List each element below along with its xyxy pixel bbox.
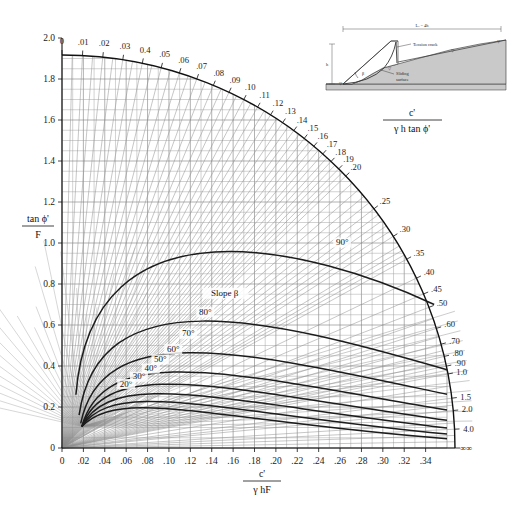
y-axis-label-numerator: tan ϕ' (27, 213, 49, 224)
radial-tick-label: .20 (350, 162, 361, 172)
radial-tick-label: .40 (424, 267, 435, 277)
radial-tick-label: .01 (78, 37, 89, 47)
radial-tick-label: .25 (380, 196, 391, 206)
radial-tick-label: .13 (285, 106, 296, 116)
radial-tick-label: .80 (452, 348, 463, 358)
x-tick-label: .16 (227, 456, 239, 466)
radial-tick-label: 0 (60, 36, 64, 46)
x-tick-label: .26 (334, 456, 346, 466)
radial-tick-label: .70 (449, 336, 460, 346)
radial-tick-mark (103, 52, 104, 57)
slope-angle-label-40: 40° (144, 363, 157, 373)
slope-stability-chart-svg: 0.02.04.06.08.10.12.14.16.18.20.22.24.26… (0, 0, 519, 508)
x-axis-label-numerator: c' (259, 468, 265, 479)
x-tick-label: .08 (142, 456, 154, 466)
y-tick-label: 0.2 (43, 402, 55, 412)
y-tick-label: 0.4 (43, 361, 55, 371)
x-axis-label-denominator: γ hF (252, 484, 271, 495)
y-tick-label: 1.2 (43, 197, 55, 207)
x-tick-label: .10 (163, 456, 175, 466)
x-tick-label: .32 (398, 456, 410, 466)
y-tick-label: 1.8 (43, 74, 55, 84)
x-tick-label: .02 (77, 456, 89, 466)
radial-axis-label-numerator: c' (409, 107, 415, 118)
x-tick-label: .14 (206, 456, 218, 466)
inset-sliding-surface-label-line2: surface (396, 77, 409, 82)
slope-angle-label-90: 90° (336, 237, 349, 247)
inset-tension-crack-label: Tension crack (413, 42, 438, 47)
x-tick-label: .20 (270, 456, 282, 466)
y-tick-label: 1.4 (43, 156, 55, 166)
inset-dimension-label: Lᵥ = 4h (415, 23, 429, 28)
slope-beta-annotation: Slope β (211, 288, 239, 298)
slope-angle-label-70: 70° (182, 328, 195, 338)
slope-angle-label-80: 80° (199, 307, 212, 317)
radial-tick-label: .14 (297, 115, 308, 125)
radial-tick-label: 4.0 (463, 424, 474, 434)
slope-angle-label-50: 50° (154, 354, 167, 364)
y-tick-label: 2.0 (43, 33, 55, 43)
y-axis-label-denominator: F (35, 229, 41, 240)
radial-tick-label: .45 (431, 284, 442, 294)
radial-tick-label: .35 (414, 248, 425, 258)
radial-tick-label: 1.5 (460, 392, 471, 402)
inset-base-slab (326, 84, 506, 90)
x-tick-label: .18 (249, 456, 261, 466)
x-tick-label: .28 (356, 456, 368, 466)
radial-tick-label: .11 (259, 90, 269, 100)
radial-tick-label: 0.4 (140, 45, 151, 55)
x-tick-label: .12 (184, 456, 196, 466)
radial-tick-label: .30 (400, 224, 411, 234)
radial-tick-label: 2.0 (462, 404, 473, 414)
x-tick-label: .30 (377, 456, 389, 466)
radial-tick-label: .09 (230, 75, 241, 85)
inset-slope-diagram: β Lᵥ = 4h h ▽ ▽ ▽ ▽ Tension crack Slidin… (316, 21, 506, 93)
x-tick-label: .04 (99, 456, 111, 466)
radial-tick-label: 1.0 (456, 367, 467, 377)
x-tick-label: .06 (120, 456, 132, 466)
y-tick-label: 0 (50, 443, 55, 453)
radial-tick-label: ∞ (466, 443, 472, 453)
y-tick-label: 1.0 (43, 238, 55, 248)
radial-tick-label: .50 (437, 298, 448, 308)
radial-tick-label: .10 (245, 82, 256, 92)
radial-tick-label: .12 (273, 98, 284, 108)
inset-sliding-surface-label-line1: Sliding (396, 71, 409, 76)
chart-figure: 0.02.04.06.08.10.12.14.16.18.20.22.24.26… (0, 0, 519, 508)
y-tick-label: 0.6 (43, 320, 55, 330)
radial-tick-label: .06 (178, 55, 189, 65)
x-tick-label: .24 (313, 456, 325, 466)
radial-tick-label: .60 (444, 319, 455, 329)
y-tick-label: 1.6 (43, 115, 55, 125)
radial-tick-label: .03 (120, 41, 131, 51)
y-tick-label: 0.8 (43, 279, 55, 289)
radial-tick-label: .08 (213, 68, 224, 78)
slope-angle-label-60: 60° (167, 344, 180, 354)
radial-axis-label-denominator: γ h tan ϕ' (393, 123, 430, 134)
x-tick-label: .22 (291, 456, 303, 466)
radial-tick-label: .07 (196, 61, 207, 71)
radial-tick-label: .05 (159, 49, 170, 59)
radial-tick-label: .02 (99, 38, 110, 48)
x-tick-label: 0 (60, 456, 65, 466)
x-tick-label: .34 (420, 456, 432, 466)
